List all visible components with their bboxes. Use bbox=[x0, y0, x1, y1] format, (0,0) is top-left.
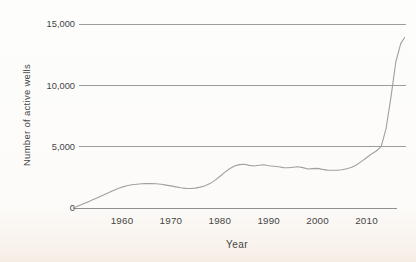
x-tick-label: 1960 bbox=[111, 215, 134, 226]
wells-chart-figure: 05,00010,00015,0001960197019801990200020… bbox=[0, 0, 416, 262]
x-tick-label: 1970 bbox=[160, 215, 183, 226]
x-tick-label: 1980 bbox=[208, 215, 231, 226]
y-axis-title: Number of active wells bbox=[21, 64, 32, 166]
y-tick-label: 5,000 bbox=[52, 142, 75, 152]
y-tick-label: 10,000 bbox=[47, 81, 75, 91]
line-chart-plot: 05,00010,00015,0001960197019801990200020… bbox=[0, 0, 416, 262]
x-tick-label: 2000 bbox=[306, 215, 329, 226]
x-axis-title: Year bbox=[226, 239, 248, 250]
x-tick-label: 1990 bbox=[257, 215, 280, 226]
active-wells-line bbox=[73, 38, 405, 209]
x-tick-label: 2010 bbox=[355, 215, 378, 226]
y-tick-label: 15,000 bbox=[47, 19, 75, 29]
y-tick-label: 0 bbox=[70, 203, 75, 213]
